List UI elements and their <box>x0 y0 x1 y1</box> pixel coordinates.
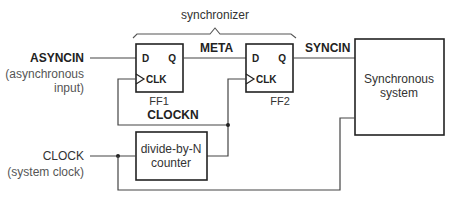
ff2-flipflop: D Q CLK FF2 <box>246 44 293 107</box>
synchronous-system-block: Synchronous system <box>355 39 444 135</box>
meta-label: META <box>200 41 233 55</box>
ff1-q-port: Q <box>168 53 176 64</box>
ff1-flipflop: D Q CLK FF1 <box>136 44 183 107</box>
ff2-q-port: Q <box>278 53 286 64</box>
ff2-clk-port: CLK <box>256 74 277 85</box>
divide-by-n-counter-block: divide-by-N counter <box>136 132 207 180</box>
clock-note: (system clock) <box>7 165 84 179</box>
asyncin-label: ASYNCIN <box>30 51 84 65</box>
clockn-junction <box>226 123 230 127</box>
counter-line2: counter <box>151 156 191 170</box>
synchronizer-diagram: synchronizer ASYNCIN (asynchronous input… <box>0 0 459 203</box>
counter-line1: divide-by-N <box>141 142 202 156</box>
ff1-d-port: D <box>142 53 149 64</box>
synchronous-system-line2: system <box>380 86 418 100</box>
synchronizer-label: synchronizer <box>181 8 249 22</box>
syncin-label: SYNCIN <box>305 41 350 55</box>
synchronizer-brace <box>133 28 296 38</box>
asyncin-note-line1: (asynchronous <box>5 67 84 81</box>
clockn-label: CLOCKN <box>147 108 198 122</box>
ff2-d-port: D <box>252 53 259 64</box>
asyncin-note-line2: input) <box>54 81 84 95</box>
ff1-clk-port: CLK <box>146 74 167 85</box>
ff1-name: FF1 <box>149 95 169 107</box>
clock-label: CLOCK <box>43 149 84 163</box>
ff2-name: FF2 <box>270 95 290 107</box>
clockn-ff2-wire <box>207 79 246 156</box>
synchronous-system-line1: Synchronous <box>364 72 434 86</box>
